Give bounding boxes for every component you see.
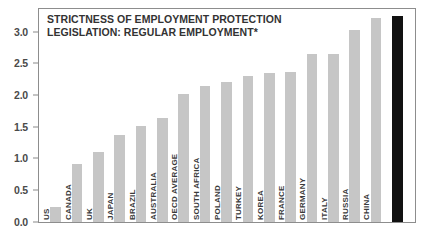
bar-canada[interactable]: CANADA	[72, 164, 83, 222]
bar-slot: AUSTRALIA	[157, 9, 168, 222]
bar-slot: OECD AVERAGE	[178, 9, 189, 222]
bar-label-poland: POLAND	[213, 185, 222, 220]
chart-title-line-2: LEGISLATION: REGULAR EMPLOYMENT*	[47, 26, 282, 39]
bar-slot: JAPAN	[114, 9, 125, 222]
bar-slot: UK	[93, 9, 104, 222]
bar-label-italy: ITALY	[320, 197, 329, 220]
y-axis: 3.02.52.01.51.00.50.0	[0, 0, 38, 243]
bar-france[interactable]: FRANCE	[285, 72, 296, 222]
y-axis-tick-label: 0.0	[14, 216, 28, 228]
bar-slot: FRANCE	[285, 9, 296, 222]
bar-label-canada: CANADA	[64, 184, 73, 220]
bar-australia[interactable]: AUSTRALIA	[157, 118, 168, 222]
bar-germany[interactable]: GERMANY	[307, 54, 318, 222]
bar-slot: CHINA	[371, 9, 382, 222]
bar-label-france: FRANCE	[277, 185, 286, 220]
plot-inner: STRICTNESS OF EMPLOYMENT PROTECTIONLEGIS…	[39, 9, 415, 222]
bar-india[interactable]: INDIA	[392, 16, 403, 222]
bar-label-india: INDIA	[384, 197, 393, 220]
chart-title-line-1: STRICTNESS OF EMPLOYMENT PROTECTION	[47, 13, 282, 26]
bar-label-korea: KOREA	[256, 190, 265, 220]
bar-label-russia: RUSSIA	[341, 189, 350, 220]
bar-label-germany: GERMANY	[298, 178, 307, 220]
bar-brazil[interactable]: BRAZIL	[136, 126, 147, 222]
bar-japan[interactable]: JAPAN	[114, 135, 125, 222]
bar-poland[interactable]: POLAND	[221, 82, 232, 222]
y-axis-tick-label: 0.5	[14, 184, 28, 196]
bar-slot: TURKEY	[243, 9, 254, 222]
chart-title: STRICTNESS OF EMPLOYMENT PROTECTIONLEGIS…	[47, 13, 282, 38]
bar-italy[interactable]: ITALY	[328, 54, 339, 222]
plot-area: STRICTNESS OF EMPLOYMENT PROTECTIONLEGIS…	[38, 8, 416, 223]
y-axis-tick-label: 2.5	[14, 57, 28, 69]
bar-slot: US	[50, 9, 61, 222]
y-axis-tick-label: 3.0	[14, 26, 28, 38]
y-axis-tick-label: 1.0	[14, 152, 28, 164]
bar-china[interactable]: CHINA	[371, 18, 382, 222]
bar-slot: BRAZIL	[136, 9, 147, 222]
bar-label-australia: AUSTRALIA	[149, 172, 158, 220]
bar-label-turkey: TURKEY	[234, 186, 243, 220]
y-axis-tick-label: 2.0	[14, 89, 28, 101]
bar-slot: SOUTH AFRICA	[200, 9, 211, 222]
bar-label-brazil: BRAZIL	[128, 189, 137, 220]
bar-slot: ITALY	[328, 9, 339, 222]
bar-korea[interactable]: KOREA	[264, 73, 275, 222]
chart-footnote	[40, 232, 380, 241]
bar-russia[interactable]: RUSSIA	[349, 30, 360, 222]
bar-slot: KOREA	[264, 9, 275, 222]
bar-turkey[interactable]: TURKEY	[243, 76, 254, 222]
bar-slot: GERMANY	[307, 9, 318, 222]
bar-oecd-average[interactable]: OECD AVERAGE	[178, 94, 189, 222]
bar-slot: POLAND	[221, 9, 232, 222]
bar-label-japan: JAPAN	[106, 192, 115, 220]
bar-series: USCANADAUKJAPANBRAZILAUSTRALIAOECD AVERA…	[39, 9, 415, 222]
bar-label-oecd-average: OECD AVERAGE	[170, 154, 179, 220]
y-axis-tick-label: 1.5	[14, 121, 28, 133]
bar-uk[interactable]: UK	[93, 152, 104, 222]
bar-south-africa[interactable]: SOUTH AFRICA	[200, 86, 211, 222]
chart-figure: 3.02.52.01.51.00.50.0 STRICTNESS OF EMPL…	[0, 0, 421, 243]
bar-label-south-africa: SOUTH AFRICA	[192, 157, 201, 220]
bar-label-us: US	[42, 208, 51, 220]
bar-slot: INDIA	[392, 9, 403, 222]
bar-us[interactable]: US	[50, 207, 61, 222]
bar-slot: CANADA	[72, 9, 83, 222]
bar-label-uk: UK	[85, 208, 94, 220]
bar-slot: RUSSIA	[349, 9, 360, 222]
bar-label-china: CHINA	[362, 194, 371, 220]
